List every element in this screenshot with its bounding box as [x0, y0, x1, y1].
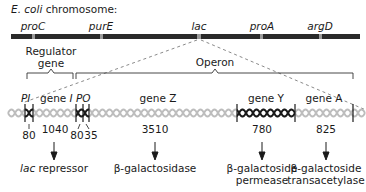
repressor-suffix: repressor [35, 162, 88, 174]
product-transacetylase: β-galactoside transacetylase [287, 162, 364, 186]
segment-po-label: PO [76, 92, 91, 104]
operon-label: Operon [196, 56, 235, 68]
gene-i-prefix: gene [40, 92, 70, 104]
product-arrows [51, 142, 329, 160]
length-gene-z: 3510 [142, 123, 169, 135]
length-gene-y: 780 [252, 123, 272, 135]
marker-label-proC: proC [21, 20, 46, 32]
operon-bracket [76, 69, 353, 79]
length-o: 35 [84, 129, 97, 141]
marker-label-argD: argD [307, 20, 333, 32]
marker-lac [197, 34, 201, 39]
segment-pi-label: PI [21, 92, 30, 104]
regulator-bracket [27, 69, 73, 79]
length-gene-i: 1040 [42, 123, 69, 135]
marker-purE [100, 34, 103, 39]
title-organism: E. coli [11, 3, 42, 15]
segment-gene-i-label: gene I [40, 92, 73, 104]
length-pi: 80 [22, 129, 35, 141]
regulator-line2: gene [26, 57, 77, 69]
transacetylase-line2: transacetylase [287, 174, 364, 186]
marker-proA [260, 34, 263, 39]
gene-i-suffix: I [70, 92, 73, 104]
transacetylase-line1: β-galactoside [287, 162, 364, 174]
marker-proC [32, 34, 35, 39]
product-lac-repressor: lac repressor [20, 162, 88, 174]
marker-label-proA: proA [250, 20, 275, 32]
regulator-line1: Regulator [26, 45, 77, 57]
chromosome-bar [11, 34, 360, 39]
segment-gene-y-label: gene Y [248, 92, 284, 104]
segment-gene-z-label: gene Z [140, 92, 177, 104]
diagram-title: E. coli chromosome: [11, 3, 117, 15]
marker-label-purE: purE [89, 20, 113, 32]
title-suffix: chromosome: [42, 3, 117, 15]
length-gene-a: 825 [316, 123, 336, 135]
product-beta-galactosidase: β-galactosidase [114, 162, 197, 174]
regulator-gene-label: Regulator gene [26, 45, 77, 69]
marker-argD [319, 34, 322, 39]
length-p: 80 [70, 129, 83, 141]
segment-gene-a-label: gene A [306, 92, 343, 104]
dna-helix [8, 104, 365, 122]
repressor-prefix: lac [20, 162, 35, 174]
marker-label-lac: lac [191, 20, 206, 32]
